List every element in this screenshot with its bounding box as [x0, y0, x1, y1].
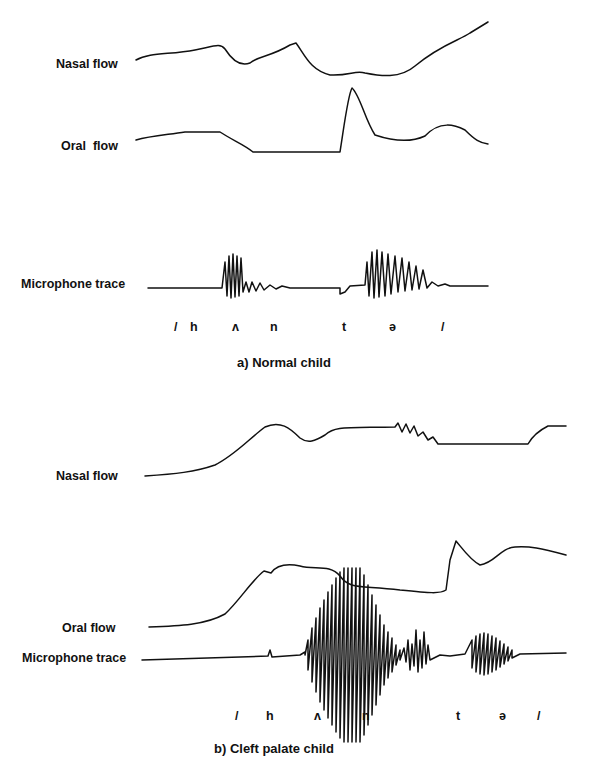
a-phoneme-schwa: ə [389, 320, 396, 334]
b-phoneme-schwa: ə [499, 709, 506, 723]
b-caption: b) Cleft palate child [214, 741, 334, 756]
b-nasal-flow-label: Nasal flow [56, 469, 118, 483]
b-phoneme-h: h [266, 709, 274, 723]
b-microphone-label: Microphone trace [22, 651, 126, 665]
a-nasal-flow-trace [136, 22, 488, 76]
a-caption: a) Normal child [237, 355, 331, 370]
b-oral-flow-label: Oral flow [62, 621, 115, 635]
a-microphone-label: Microphone trace [21, 277, 125, 291]
a-nasal-flow-label: Nasal flow [56, 57, 118, 71]
a-oral-flow-label: Oral flow [61, 139, 118, 153]
b-phoneme-open-slash: / [235, 709, 238, 723]
a-phoneme-h: h [190, 320, 198, 334]
b-phoneme-n: n [362, 709, 370, 723]
a-phoneme-open-slash: / [174, 320, 177, 334]
b-oral-flow-trace [149, 541, 566, 627]
a-phoneme-close-slash: / [441, 320, 444, 334]
b-phoneme-close-slash: / [537, 709, 540, 723]
a-phoneme-n: n [270, 320, 278, 334]
b-phoneme-t: t [456, 709, 460, 723]
a-oral-flow-trace [136, 88, 488, 152]
a-phoneme-t: t [342, 320, 346, 334]
a-microphone-trace [148, 250, 488, 298]
a-phoneme-wedge: ʌ [232, 320, 239, 334]
b-phoneme-wedge: ʌ [314, 709, 321, 723]
b-nasal-flow-trace [145, 423, 566, 476]
